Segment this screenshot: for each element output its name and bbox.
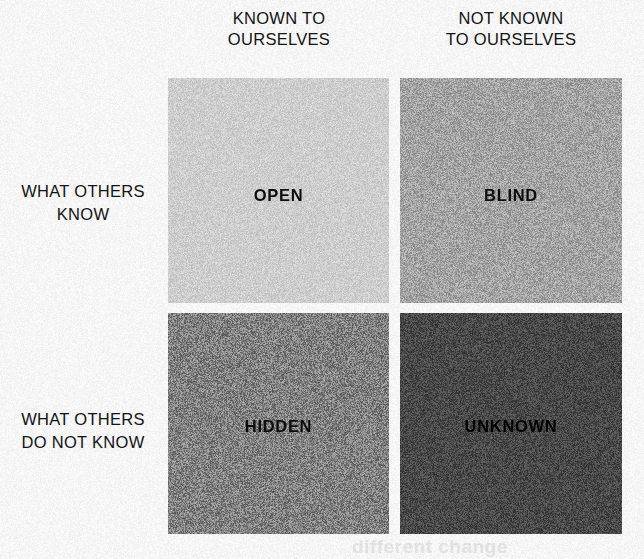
quadrant-label-unknown: UNKNOWN [400,417,622,436]
column-header-not-known-to-ourselves: NOT KNOWN TO OURSELVES [400,8,622,50]
bleed-through-artifact: different change [352,536,508,558]
quadrant-label-open: OPEN [168,186,389,205]
row-header-line-2: KNOW [4,203,162,226]
column-header-known-to-ourselves: KNOWN TO OURSELVES [168,8,390,50]
row-header-what-others-know: WHAT OTHERS KNOW [4,180,162,226]
row-header-line-2: DO NOT KNOW [4,431,162,454]
quadrant-unknown: UNKNOWN [400,313,622,534]
column-header-line-2: OURSELVES [168,29,390,50]
quadrant-label-hidden: HIDDEN [168,417,389,436]
row-header-line-1: WHAT OTHERS [4,180,162,203]
quadrant-label-blind: BLIND [400,186,622,205]
row-header-what-others-do-not-know: WHAT OTHERS DO NOT KNOW [4,408,162,454]
quadrant-hidden: HIDDEN [168,313,389,534]
quadrant-blind: BLIND [400,78,622,303]
johari-window-figure: different change KNOWN TO OURSELVES NOT … [0,0,644,559]
column-header-line-1: NOT KNOWN [400,8,622,29]
row-header-line-1: WHAT OTHERS [4,408,162,431]
column-header-line-2: TO OURSELVES [400,29,622,50]
column-header-line-1: KNOWN TO [168,8,390,29]
quadrant-open: OPEN [168,78,389,303]
